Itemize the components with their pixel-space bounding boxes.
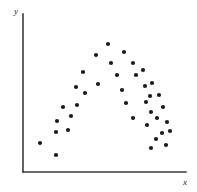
data-point xyxy=(94,53,98,57)
data-point xyxy=(131,61,135,65)
data-point xyxy=(149,110,153,114)
data-point xyxy=(54,130,58,134)
data-point xyxy=(74,85,78,89)
data-point xyxy=(164,143,168,147)
data-point xyxy=(157,93,161,97)
data-point xyxy=(122,50,126,54)
data-point xyxy=(120,88,124,92)
data-point xyxy=(160,131,164,135)
data-point xyxy=(96,82,100,86)
data-point xyxy=(145,123,149,127)
data-point xyxy=(134,73,138,77)
data-point xyxy=(75,103,79,107)
data-points-group xyxy=(38,42,172,157)
y-axis-label: y xyxy=(13,6,18,16)
data-point xyxy=(149,146,153,150)
plot-canvas: y x xyxy=(0,0,197,192)
data-point xyxy=(148,94,152,98)
data-point xyxy=(161,105,165,109)
data-point xyxy=(155,116,159,120)
data-point xyxy=(55,119,59,123)
data-point xyxy=(141,68,145,72)
data-point xyxy=(131,116,135,120)
scatter-plot-figure: y x xyxy=(0,0,197,192)
data-point xyxy=(150,81,154,85)
data-point xyxy=(106,42,110,46)
data-point xyxy=(54,153,58,157)
data-point xyxy=(61,105,65,109)
data-point xyxy=(69,114,73,118)
axes-group xyxy=(23,14,186,172)
data-point xyxy=(38,141,42,145)
data-point xyxy=(66,128,70,132)
data-point xyxy=(81,70,85,74)
data-point xyxy=(124,101,128,105)
data-point xyxy=(165,120,169,124)
data-point xyxy=(109,61,113,65)
x-axis-label: x xyxy=(182,177,187,187)
data-point xyxy=(143,84,147,88)
data-point xyxy=(144,100,148,104)
data-point xyxy=(83,91,87,95)
data-point xyxy=(154,137,158,141)
data-point xyxy=(168,129,172,133)
data-point xyxy=(115,73,119,77)
